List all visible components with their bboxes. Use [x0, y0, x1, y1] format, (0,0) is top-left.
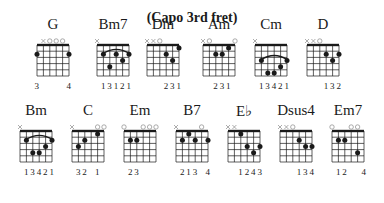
finger-number: 3: [35, 81, 40, 91]
fretboard-grid: [66, 123, 112, 167]
muted-string-icon: [41, 39, 45, 43]
finger-dot-icon: [220, 52, 225, 57]
muted-string-icon: [18, 125, 22, 129]
finger-number: 2: [120, 81, 125, 91]
finger-number: 2: [82, 167, 87, 177]
finger-number: 3: [107, 81, 112, 91]
open-string-icon: [95, 125, 99, 129]
fretboard-grid: [197, 37, 243, 81]
chord-name: D: [291, 16, 355, 33]
finger-number: 2: [278, 81, 283, 91]
finger-dot-icon: [278, 64, 283, 69]
open-string-icon: [330, 125, 334, 129]
finger-number: 4: [37, 167, 42, 177]
muted-string-icon: [201, 39, 205, 43]
finger-dot-icon: [170, 58, 175, 63]
open-string-icon: [147, 125, 151, 129]
finger-number: 1: [285, 81, 290, 91]
muted-string-icon: [145, 39, 149, 43]
open-string-icon: [60, 39, 64, 43]
finger-number: 3: [220, 81, 225, 91]
chord-name: Dm: [131, 16, 195, 33]
muted-string-icon: [284, 125, 288, 129]
open-string-icon: [54, 39, 58, 43]
finger-dot-icon: [120, 58, 125, 63]
muted-string-icon: [311, 39, 315, 43]
finger-number: 3: [170, 81, 175, 91]
muted-string-icon: [278, 125, 282, 129]
finger-dot-icon: [342, 138, 347, 143]
finger-number: 4: [310, 167, 315, 177]
muted-string-icon: [174, 125, 178, 129]
finger-number: 4: [251, 167, 256, 177]
finger-dot-icon: [355, 150, 360, 155]
finger-dot-icon: [24, 138, 29, 143]
finger-dot-icon: [164, 52, 169, 57]
muted-string-icon: [305, 39, 309, 43]
finger-dot-icon: [297, 138, 302, 143]
chord-name: G: [21, 16, 85, 33]
fretboard-grid: [91, 37, 137, 81]
finger-dot-icon: [30, 150, 35, 155]
finger-number: 1: [259, 81, 264, 91]
fretboard-grid: [118, 123, 164, 167]
finger-dot-icon: [272, 70, 277, 75]
open-string-icon: [349, 125, 353, 129]
finger-dot-icon: [35, 52, 40, 57]
muted-string-icon: [232, 125, 236, 129]
finger-dot-icon: [258, 144, 263, 149]
fretboard-grid: [249, 37, 295, 81]
fretboard-grid: [274, 123, 320, 167]
finger-number: 4: [67, 81, 72, 91]
fretboard-grid: [222, 123, 268, 167]
open-string-icon: [141, 125, 145, 129]
fretboard-grid: [326, 123, 372, 167]
finger-dot-icon: [76, 144, 81, 149]
finger-number: 3: [330, 81, 335, 91]
finger-number: 2: [164, 81, 169, 91]
finger-number: 1: [50, 167, 55, 177]
finger-dot-icon: [337, 52, 342, 57]
fretboard-grid: [301, 37, 347, 81]
open-string-icon: [102, 125, 106, 129]
fretboard-grid: [14, 123, 60, 167]
finger-number: 4: [272, 81, 277, 91]
finger-number: 3: [265, 81, 270, 91]
open-string-icon: [233, 39, 237, 43]
finger-dot-icon: [285, 58, 290, 63]
finger-dot-icon: [251, 150, 256, 155]
finger-dot-icon: [127, 52, 132, 57]
finger-dot-icon: [245, 144, 250, 149]
finger-number: 4: [362, 167, 367, 177]
finger-dot-icon: [193, 138, 198, 143]
finger-number: 1: [238, 167, 243, 177]
finger-number: 1: [127, 81, 132, 91]
finger-dot-icon: [101, 52, 106, 57]
finger-number: 1: [114, 81, 119, 91]
finger-dot-icon: [177, 46, 182, 51]
finger-number: 1: [226, 81, 231, 91]
muted-string-icon: [95, 39, 99, 43]
finger-number: 2: [213, 81, 218, 91]
open-string-icon: [355, 125, 359, 129]
finger-number: 3: [76, 167, 81, 177]
finger-number: 1: [95, 167, 100, 177]
chord-name: Em7: [316, 102, 380, 119]
finger-number: 3: [30, 167, 35, 177]
finger-number: 3: [258, 167, 263, 177]
finger-number: 1: [336, 167, 341, 177]
fretboard-grid: [141, 37, 187, 81]
open-string-icon: [318, 39, 322, 43]
finger-dot-icon: [37, 150, 42, 155]
muted-string-icon: [253, 39, 257, 43]
open-string-icon: [291, 125, 295, 129]
finger-dot-icon: [134, 138, 139, 143]
finger-dot-icon: [324, 52, 329, 57]
finger-number: 3: [193, 167, 198, 177]
open-string-icon: [122, 125, 126, 129]
finger-dot-icon: [128, 138, 133, 143]
open-string-icon: [199, 125, 203, 129]
finger-number: 2: [337, 81, 342, 91]
finger-dot-icon: [50, 138, 55, 143]
finger-dot-icon: [265, 70, 270, 75]
